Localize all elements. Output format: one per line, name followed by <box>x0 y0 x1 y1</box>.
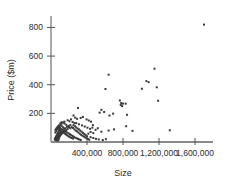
data-point <box>91 127 93 129</box>
data-point <box>97 127 99 129</box>
x-axis: 400,000800,0001,200,0001,600,000 Size <box>51 138 214 178</box>
data-point <box>81 124 83 126</box>
data-point <box>108 130 110 132</box>
data-point <box>95 129 97 131</box>
data-point <box>112 113 114 115</box>
data-point <box>68 126 70 128</box>
data-point <box>102 139 104 141</box>
data-point <box>157 100 159 102</box>
data-point <box>125 103 127 105</box>
data-point <box>58 125 60 127</box>
data-point <box>98 138 100 140</box>
data-point <box>122 103 124 105</box>
data-point <box>92 124 94 126</box>
data-point <box>90 136 92 138</box>
data-point <box>72 121 74 123</box>
data-point <box>84 126 86 128</box>
data-point <box>125 125 127 127</box>
x-tick-label: 1,600,000 <box>176 148 214 158</box>
x-axis-title: Size <box>114 168 132 178</box>
data-point <box>86 135 88 137</box>
x-tick-label: 400,000 <box>72 148 103 158</box>
data-point <box>68 120 70 122</box>
data-point <box>103 111 105 113</box>
data-point <box>82 116 84 118</box>
data-point <box>121 105 123 107</box>
data-point <box>63 128 65 130</box>
data-point <box>76 118 78 120</box>
data-points <box>54 24 205 142</box>
y-axis-title: Price ($m) <box>6 59 16 101</box>
data-point <box>64 121 66 123</box>
data-point <box>78 123 80 125</box>
y-tick-label: 400 <box>29 80 43 90</box>
data-point <box>109 115 111 117</box>
data-point <box>105 138 107 140</box>
data-point <box>148 81 150 83</box>
data-point <box>66 126 68 128</box>
data-point <box>65 124 67 126</box>
y-tick-labels: 200400600800 <box>29 22 43 118</box>
x-tick-label: 1,200,000 <box>140 148 178 158</box>
data-point <box>89 128 91 130</box>
data-point <box>154 68 156 70</box>
data-point <box>87 133 89 135</box>
data-point <box>156 86 158 88</box>
data-point <box>141 88 143 90</box>
data-point <box>86 127 88 129</box>
data-point <box>86 118 88 120</box>
y-tick-label: 200 <box>29 108 43 118</box>
data-point <box>74 117 76 119</box>
data-point <box>70 118 72 120</box>
data-point <box>92 132 94 134</box>
data-point <box>56 133 58 135</box>
y-axis: 200400600800 Price ($m) <box>6 16 55 142</box>
data-point <box>55 137 57 139</box>
data-point <box>69 124 71 126</box>
data-point <box>80 117 82 119</box>
data-point <box>145 80 147 82</box>
y-tick-label: 600 <box>29 51 43 61</box>
data-point <box>59 134 61 136</box>
data-point <box>169 129 171 131</box>
data-point <box>203 24 205 26</box>
data-point <box>99 112 101 114</box>
y-tick-label: 800 <box>29 22 43 32</box>
data-point <box>80 139 82 141</box>
plot-area: 200400600800 Price ($m) 400,000800,0001,… <box>0 0 233 186</box>
data-point <box>104 88 106 90</box>
data-point <box>100 131 102 133</box>
data-point <box>59 122 61 124</box>
data-point <box>108 74 110 76</box>
x-tick-labels: 400,000800,0001,200,0001,600,000 <box>72 148 215 158</box>
data-point <box>75 122 77 124</box>
data-point <box>119 99 121 101</box>
data-point <box>88 139 90 141</box>
data-point <box>73 122 75 124</box>
data-point <box>72 127 74 129</box>
x-tick-label: 800,000 <box>108 148 139 158</box>
data-point <box>88 120 90 122</box>
data-point <box>95 138 97 140</box>
data-point <box>90 121 92 123</box>
data-point <box>120 102 122 104</box>
data-point <box>131 130 133 132</box>
data-point <box>54 138 56 140</box>
data-point <box>73 115 75 117</box>
data-point <box>77 107 79 109</box>
data-point <box>56 135 58 137</box>
scatter-chart: 200400600800 Price ($m) 400,000800,0001,… <box>0 0 233 186</box>
data-point <box>57 139 59 141</box>
data-point <box>90 131 92 133</box>
data-point <box>126 114 128 116</box>
data-point <box>113 128 115 130</box>
data-point <box>100 109 102 111</box>
data-point <box>92 137 94 139</box>
data-point <box>67 119 69 121</box>
data-point <box>72 138 74 140</box>
